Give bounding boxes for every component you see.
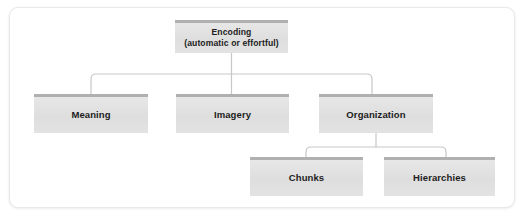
node-imagery-label: Imagery xyxy=(210,109,255,121)
node-organization-label: Organization xyxy=(342,109,409,121)
node-hierarchies[interactable]: Hierarchies xyxy=(384,157,495,196)
diagram-canvas: Encoding (automatic or effortful) Meanin… xyxy=(0,0,528,222)
node-hierarchies-label: Hierarchies xyxy=(409,172,470,184)
node-encoding[interactable]: Encoding (automatic or effortful) xyxy=(175,20,288,53)
node-imagery[interactable]: Imagery xyxy=(176,94,289,133)
node-meaning[interactable]: Meaning xyxy=(34,94,148,133)
node-meaning-label: Meaning xyxy=(67,109,114,121)
node-organization[interactable]: Organization xyxy=(319,94,433,133)
node-chunks[interactable]: Chunks xyxy=(250,157,363,196)
connector-organization-bus xyxy=(306,147,446,157)
node-encoding-label: Encoding (automatic or effortful) xyxy=(180,27,283,50)
node-chunks-label: Chunks xyxy=(285,172,328,184)
connector-encoding-bus xyxy=(91,74,372,94)
diagram-root: Encoding (automatic or effortful) Meanin… xyxy=(0,0,528,222)
